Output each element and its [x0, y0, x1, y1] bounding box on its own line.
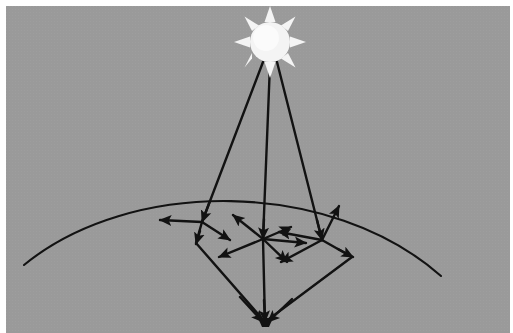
incident-arrow-center — [263, 219, 264, 239]
scattering-diagram: Solar radiative transfer and multiple sc… — [0, 0, 513, 333]
figure-root: Solar radiative transfer and multiple sc… — [0, 0, 513, 333]
sun-disc-highlight — [253, 25, 279, 51]
